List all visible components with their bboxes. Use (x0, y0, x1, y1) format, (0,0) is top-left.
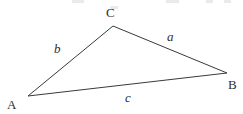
side-label-c: c (125, 91, 131, 104)
side-label-b: b (54, 42, 61, 55)
triangle-outline (28, 26, 227, 96)
side-label-a: a (167, 30, 174, 43)
triangle-figure: A B C a b c (0, 0, 243, 114)
vertex-label-c: C (106, 6, 115, 19)
vertex-label-b: B (228, 78, 237, 91)
triangle-drawing (0, 0, 243, 114)
vertex-label-a: A (7, 98, 16, 111)
